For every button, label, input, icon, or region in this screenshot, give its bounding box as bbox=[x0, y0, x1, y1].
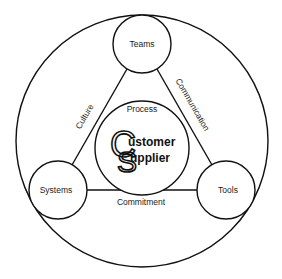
commitment-label: Commitment bbox=[117, 197, 166, 207]
tools-label: Tools bbox=[218, 185, 238, 195]
teams-label: Teams bbox=[129, 39, 154, 49]
process-label: Process bbox=[127, 104, 158, 114]
customer-supplier-diagram: Teams Systems Tools Process Culture Comm… bbox=[0, 0, 282, 279]
logo-word-customer: ustomer bbox=[128, 135, 176, 149]
culture-label: Culture bbox=[73, 102, 95, 131]
systems-label: Systems bbox=[40, 185, 73, 195]
logo-word-supplier: upplier bbox=[130, 151, 170, 165]
